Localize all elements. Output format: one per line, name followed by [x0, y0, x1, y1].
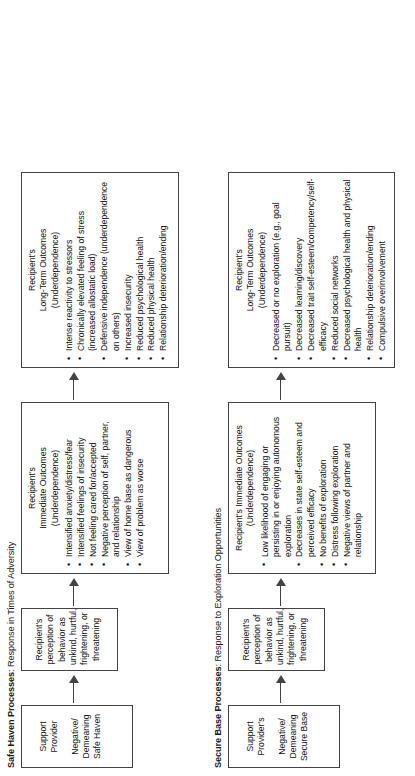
list-item: Reduced psychological health — [135, 178, 146, 351]
list-item: Relationship deterioration/ending — [158, 178, 169, 351]
secure-base-perception-line1: Recipient's — [241, 614, 252, 665]
secure-base-perception-line5: frightening, or — [286, 614, 297, 665]
secure-base-title-rest: : Response to Exploration Opportunities — [213, 508, 223, 667]
list-item: Distress following exploration — [330, 408, 341, 557]
safe-haven-arrow-immediate-to-longterm — [67, 368, 81, 402]
secure-base-immediate-bullets: Low likelihood of engaging or persisting… — [260, 408, 365, 568]
arrow-head-icon — [69, 372, 79, 380]
safe-haven-support-provider-box: Support Provider Negative/ Demeaning Saf… — [21, 705, 133, 768]
secure-base-immediate-head1: Recipient's Immediate Outcomes — [234, 408, 245, 568]
list-item: Defensive independence (underdependence … — [99, 178, 122, 351]
list-item: Low likelihood of engaging or persisting… — [260, 408, 294, 557]
safe-haven-longterm-head: Recipient's Long-Term Outcomes (Underdep… — [27, 178, 61, 362]
secure-base-longterm-head1: Recipient's — [234, 178, 245, 362]
safe-haven-perception-line2: perception of — [45, 614, 56, 665]
secure-base-immediate-head: Recipient's Immediate Outcomes (Underdep… — [234, 408, 257, 568]
list-item: No benefits of exploration — [318, 408, 329, 557]
safe-haven-longterm-outcomes-box: Recipient's Long-Term Outcomes (Underdep… — [21, 172, 179, 368]
secure-base-flow: Support Provider's Negative/ Demeaning S… — [228, 172, 395, 768]
list-item: Decreased psychological health and physi… — [342, 178, 365, 351]
safe-haven-longterm-bullets: Intense reactivity to stressors Chronica… — [64, 178, 170, 362]
secure-base-provider-line4: Demeaning — [288, 711, 299, 762]
list-item: Decreased trait self-esteem/competency/s… — [306, 178, 329, 351]
safe-haven-arrow-provider-to-perception — [67, 671, 81, 705]
secure-base-provider-line3: Negative/ — [277, 711, 288, 762]
arrow-head-icon — [276, 372, 286, 380]
list-item: Intense reactivity to stressors — [64, 178, 75, 351]
diagram-canvas: Safe Haven Processes: Response in Times … — [0, 0, 415, 776]
safe-haven-section-title: Safe Haven Processes: Response in Times … — [6, 542, 16, 768]
secure-base-provider-head: Support Provider's Negative/ Demeaning S… — [245, 711, 311, 762]
arrow-head-icon — [69, 578, 79, 586]
safe-haven-perception-head: Recipient's perception of behavior as un… — [34, 614, 102, 665]
secure-base-immediate-outcomes-box: Recipient's Immediate Outcomes (Underdep… — [228, 402, 376, 574]
list-item: Not feeling cared for/accepted — [88, 408, 99, 557]
secure-base-perception-line4: unkind, hurtful, — [275, 614, 286, 665]
secure-base-section-title: Secure Base Processes: Response to Explo… — [213, 508, 223, 768]
secure-base-perception-line3: behavior as — [264, 614, 275, 665]
safe-haven-provider-line5: Safe Haven — [92, 711, 103, 762]
secure-base-perception-line2: perception of — [252, 614, 263, 665]
safe-haven-provider-line1: Support — [38, 711, 49, 762]
secure-base-arrow-perception-to-immediate — [274, 574, 288, 608]
safe-haven-perception-line5: frightening, or — [79, 614, 90, 665]
secure-base-support-provider-box: Support Provider's Negative/ Demeaning S… — [228, 705, 340, 768]
secure-base-immediate-head2: (Underdependence) — [245, 408, 256, 568]
safe-haven-flow: Support Provider Negative/ Demeaning Saf… — [21, 172, 179, 768]
safe-haven-provider-spacer — [61, 711, 70, 762]
secure-base-provider-line1: Support — [245, 711, 256, 762]
safe-haven-title-rest: : Response in Times of Adversity — [6, 542, 16, 672]
secure-base-provider-spacer — [268, 711, 277, 762]
safe-haven-immediate-head: Recipient's Immediate Outcomes (Underdep… — [27, 408, 61, 568]
safe-haven-title-strong: Safe Haven Processes — [6, 672, 16, 768]
safe-haven-perception-line1: Recipient's — [34, 614, 45, 665]
safe-haven-provider-line3: Negative/ — [70, 711, 81, 762]
secure-base-longterm-head3: (Underdependence) — [257, 178, 268, 362]
arrow-head-icon — [69, 675, 79, 683]
safe-haven-provider-head: Support Provider Negative/ Demeaning Saf… — [38, 711, 104, 762]
secure-base-longterm-head: Recipient's Long-Term Outcomes (Underdep… — [234, 178, 268, 362]
safe-haven-immediate-head3: (Underdependence) — [50, 408, 61, 568]
safe-haven-provider-line2: Provider — [49, 711, 60, 762]
secure-base-longterm-bullets: Decreased or no exploration (e.g., goal … — [271, 178, 388, 362]
list-item: Negative perception of self, partner, an… — [100, 408, 123, 557]
safe-haven-perception-line6: threatening — [91, 614, 102, 665]
safe-haven-immediate-head1: Recipient's — [27, 408, 38, 568]
secure-base-perception-line6: threatening — [298, 614, 309, 665]
secure-base-title-strong: Secure Base Processes — [213, 666, 223, 768]
list-item: View of problem as worse — [135, 408, 146, 557]
safe-haven-immediate-outcomes-box: Recipient's Immediate Outcomes (Underdep… — [21, 402, 169, 574]
secure-base-arrow-provider-to-perception — [274, 671, 288, 705]
safe-haven-perception-box: Recipient's perception of behavior as un… — [21, 608, 118, 671]
secure-base-provider-line5: Secure Base — [299, 711, 310, 762]
safe-haven-perception-line3: behavior as — [57, 614, 68, 665]
secure-base-perception-head: Recipient's perception of behavior as un… — [241, 614, 309, 665]
secure-base-perception-box: Recipient's perception of behavior as un… — [228, 608, 325, 671]
list-item: Chronically elevated feeling of stress (… — [76, 178, 99, 351]
secure-base-provider-line2: Provider's — [256, 711, 267, 762]
secure-base-arrow-immediate-to-longterm — [274, 368, 288, 402]
list-item: Decreases in state self-esteem and perce… — [294, 408, 317, 557]
list-item: View of home base as dangerous — [123, 408, 134, 557]
list-item: Negative views of partner and relationsh… — [342, 408, 365, 557]
list-item: Reduced physical health — [146, 178, 157, 351]
safe-haven-longterm-head1: Recipient's — [27, 178, 38, 362]
list-item: Relationship deterioration/ending — [365, 178, 376, 351]
arrow-head-icon — [276, 578, 286, 586]
safe-haven-longterm-head2: Long-Term Outcomes — [38, 178, 49, 362]
list-item: Intensified feelings of insecurity — [76, 408, 87, 557]
list-item: Reduced social networks — [330, 178, 341, 351]
safe-haven-immediate-head2: Immediate Outcomes — [38, 408, 49, 568]
secure-base-longterm-head2: Long-Term Outcomes — [245, 178, 256, 362]
list-item: Compulsive overinvolvement — [377, 178, 388, 351]
list-item: Decreased learning/discovery — [294, 178, 305, 351]
secure-base-longterm-outcomes-box: Recipient's Long-Term Outcomes (Underdep… — [228, 172, 395, 368]
safe-haven-perception-line4: unkind, hurtful, — [68, 614, 79, 665]
list-item: Decreased or no exploration (e.g., goal … — [271, 178, 294, 351]
arrow-head-icon — [276, 675, 286, 683]
safe-haven-arrow-perception-to-immediate — [67, 574, 81, 608]
safe-haven-immediate-bullets: Intensified anxiety/distress/fear Intens… — [64, 408, 146, 568]
safe-haven-longterm-head3: (Underdependence) — [50, 178, 61, 362]
safe-haven-provider-line4: Demeaning — [81, 711, 92, 762]
list-item: Increased insecurity — [123, 178, 134, 351]
